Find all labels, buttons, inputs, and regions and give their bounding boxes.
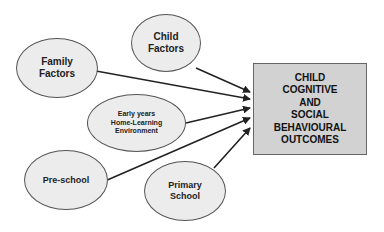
- node-family-factors: Family Factors: [16, 38, 98, 98]
- node-label: Primary School: [168, 180, 202, 202]
- node-label: Pre-school: [43, 175, 90, 186]
- arrow-primary-school: [214, 128, 250, 168]
- node-label: Child Factors: [148, 31, 184, 55]
- node-label: Early years Home-Learning Environment: [111, 110, 162, 135]
- arrow-early-years: [186, 108, 250, 123]
- node-primary-school: Primary School: [144, 161, 226, 221]
- arrow-child-factors: [196, 68, 250, 92]
- node-label: Family Factors: [39, 56, 75, 80]
- node-child-factors: Child Factors: [131, 14, 201, 72]
- outcome-label: CHILD COGNITIVE AND SOCIAL BEHAVIOURAL O…: [274, 72, 347, 147]
- outcome-box: CHILD COGNITIVE AND SOCIAL BEHAVIOURAL O…: [253, 63, 367, 155]
- node-early-years-hle: Early years Home-Learning Environment: [87, 94, 186, 152]
- node-pre-school: Pre-school: [24, 150, 108, 210]
